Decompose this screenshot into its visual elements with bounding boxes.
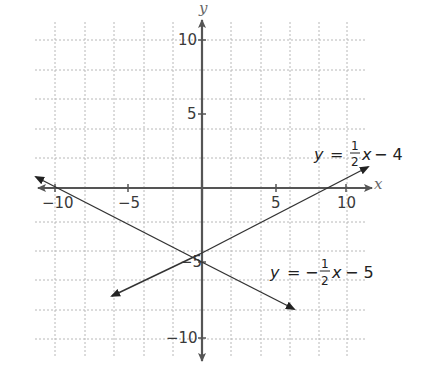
equation-label-line1: y = 1 2 x − 4 xyxy=(313,139,403,169)
svg-text:− 5: − 5 xyxy=(345,263,374,282)
svg-text:2: 2 xyxy=(351,155,359,169)
svg-text:=: = xyxy=(287,263,300,282)
svg-text:x: x xyxy=(331,263,342,282)
line-y-half-x-minus-4-lower xyxy=(112,254,200,296)
tick-label-x-5: 5 xyxy=(271,194,281,212)
grid xyxy=(35,22,366,358)
svg-text:− 4: − 4 xyxy=(374,145,403,164)
x-axis-label: x xyxy=(374,175,383,193)
tick-label-y-10: 10 xyxy=(178,31,197,49)
coordinate-plane: −10 −5 5 10 10 5 −5 −10 x y y = 1 2 x − … xyxy=(0,0,426,375)
svg-text:x: x xyxy=(361,145,372,164)
svg-text:y: y xyxy=(269,263,280,282)
tick-label-x-10: 10 xyxy=(337,194,356,212)
tick-label-y-5: 5 xyxy=(187,105,197,123)
svg-text:2: 2 xyxy=(321,274,329,288)
equation-label-line2: y = − 1 2 x − 5 xyxy=(269,257,374,288)
svg-text:1: 1 xyxy=(351,139,359,153)
tick-label-x--5: −5 xyxy=(118,194,140,212)
svg-text:y: y xyxy=(313,145,324,164)
tick-label-x--10: −10 xyxy=(42,194,74,212)
svg-text:=: = xyxy=(330,145,343,164)
y-axis-label: y xyxy=(198,0,208,17)
svg-text:1: 1 xyxy=(321,257,329,271)
svg-text:−: − xyxy=(305,263,318,282)
tick-label-y--10: −10 xyxy=(166,329,198,347)
